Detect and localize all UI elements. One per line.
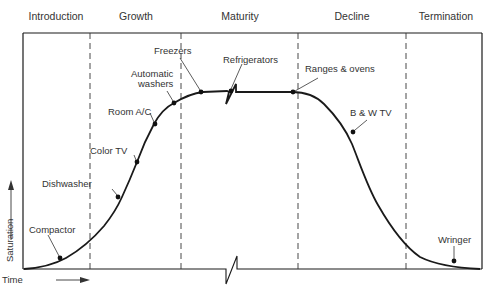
leader-color-tv	[134, 155, 136, 160]
point-compactor	[58, 256, 63, 261]
y-axis-label: Saturation	[4, 219, 15, 262]
leader-auto-washers	[167, 91, 173, 101]
point-bw-tv	[351, 130, 356, 135]
point-dishwasher	[116, 195, 121, 200]
leader-freezers	[180, 58, 200, 90]
point-ranges-ovens	[291, 90, 296, 95]
label-auto-washers-2: washers	[138, 78, 173, 89]
label-color-tv: Color TV	[90, 145, 127, 156]
label-compactor: Compactor	[29, 224, 75, 235]
label-wringer: Wringer	[438, 234, 471, 245]
point-wringer	[452, 259, 457, 264]
leader-compactor	[48, 235, 59, 256]
label-ranges-ovens: Ranges & ovens	[305, 63, 375, 74]
x-axis-label: Time	[2, 274, 23, 285]
leader-bw-tv	[355, 120, 367, 130]
label-dishwasher: Dishwasher	[42, 178, 92, 189]
label-refrigerators: Refrigerators	[223, 54, 278, 65]
label-bw-tv: B & W TV	[350, 107, 392, 118]
x-axis	[23, 256, 482, 284]
leader-dishwasher	[112, 189, 117, 195]
point-refrigerators	[229, 89, 234, 94]
label-freezers: Freezers	[154, 45, 191, 56]
label-room-ac: Room A/C	[108, 106, 151, 117]
life-cycle-chart	[0, 0, 494, 296]
point-color-tv	[135, 160, 140, 165]
point-freezers	[199, 90, 204, 95]
leader-ranges-ovens	[295, 78, 318, 91]
point-room-ac	[153, 122, 158, 127]
point-auto-washers	[172, 101, 177, 106]
saturation-curve	[24, 84, 480, 269]
